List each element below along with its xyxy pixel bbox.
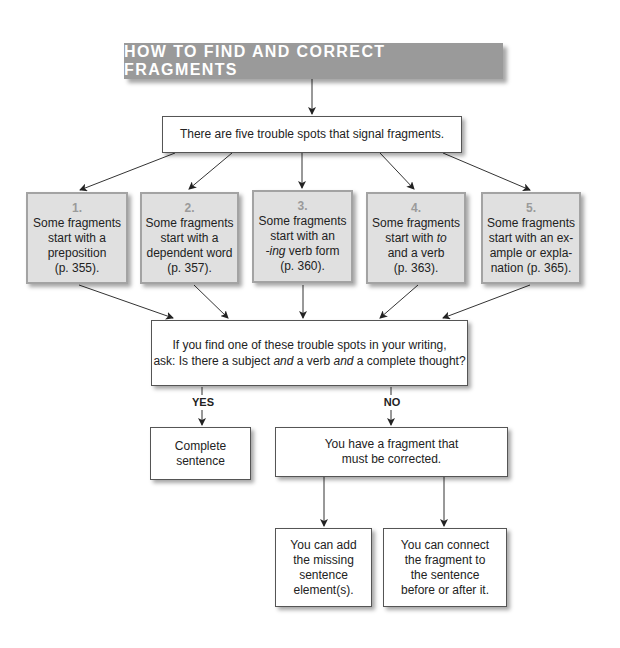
- spot-text: start with to: [385, 231, 446, 246]
- spot-text: (p. 357).: [167, 261, 212, 276]
- spot-text: start with a: [48, 231, 106, 246]
- result-text: sentence: [176, 454, 225, 469]
- trouble-spot-2: 2. Some fragments start with a dependent…: [140, 192, 239, 284]
- spot-text: -ing verb form: [265, 244, 339, 259]
- spot-text: (p. 355).: [55, 261, 100, 276]
- spot-text: Some fragments: [372, 216, 460, 231]
- trouble-spot-1: 1. Some fragments start with a prepositi…: [26, 192, 128, 284]
- spot-text: nation (p. 365).: [491, 261, 572, 276]
- spot-text: (p. 363).: [394, 261, 439, 276]
- spot-text: Some fragments: [487, 216, 575, 231]
- spot-number: 4.: [411, 201, 421, 216]
- yes-label: YES: [190, 396, 216, 408]
- fix-text: the sentence: [411, 568, 480, 583]
- question-box: If you find one of these trouble spots i…: [151, 320, 468, 386]
- fix-text: the missing: [293, 553, 354, 568]
- question-line-1: If you find one of these trouble spots i…: [172, 337, 446, 353]
- complete-sentence-box: Complete sentence: [150, 427, 251, 480]
- spot-text: Some fragments: [33, 216, 121, 231]
- fix-text: You can add: [290, 538, 356, 553]
- spot-text: dependent word: [146, 246, 232, 261]
- spot-text: and a verb: [388, 246, 445, 261]
- trouble-spot-5: 5. Some fragments start with an ex- ampl…: [481, 192, 581, 284]
- fix-text: You can connect: [401, 538, 489, 553]
- trouble-spot-3: 3. Some fragments start with an -ing ver…: [252, 190, 353, 283]
- result-text: You have a fragment that: [325, 437, 459, 452]
- spot-number: 5.: [526, 201, 536, 216]
- spot-text: start with an: [270, 229, 335, 244]
- spot-number: 3.: [297, 199, 307, 214]
- spot-text: start with an ex-: [489, 231, 574, 246]
- fix-text: the fragment to: [405, 553, 486, 568]
- intro-text: There are five trouble spots that signal…: [180, 127, 444, 142]
- fix-text: sentence: [299, 568, 348, 583]
- spot-text: (p. 360).: [280, 259, 325, 274]
- spot-number: 1.: [72, 201, 82, 216]
- result-text: Complete: [175, 439, 226, 454]
- chart-title: HOW TO FIND AND CORRECT FRAGMENTS: [124, 43, 503, 79]
- trouble-spot-4: 4. Some fragments start with to and a ve…: [366, 192, 466, 284]
- fix-add-box: You can add the missing sentence element…: [275, 528, 372, 607]
- fragment-box: You have a fragment that must be correct…: [275, 427, 508, 477]
- spot-text: start with a: [160, 231, 218, 246]
- fix-text: before or after it.: [401, 583, 489, 598]
- spot-text: ample or expla-: [490, 246, 573, 261]
- fix-text: element(s).: [293, 583, 353, 598]
- spot-text: Some fragments: [258, 214, 346, 229]
- spot-text: preposition: [48, 246, 107, 261]
- no-label: NO: [381, 396, 403, 408]
- question-line-2: ask: Is there a subject and a verb and a…: [153, 353, 465, 369]
- spot-number: 2.: [184, 201, 194, 216]
- fix-connect-box: You can connect the fragment to the sent…: [383, 528, 507, 607]
- result-text: must be corrected.: [342, 452, 441, 467]
- spot-text: Some fragments: [145, 216, 233, 231]
- intro-box: There are five trouble spots that signal…: [162, 116, 462, 153]
